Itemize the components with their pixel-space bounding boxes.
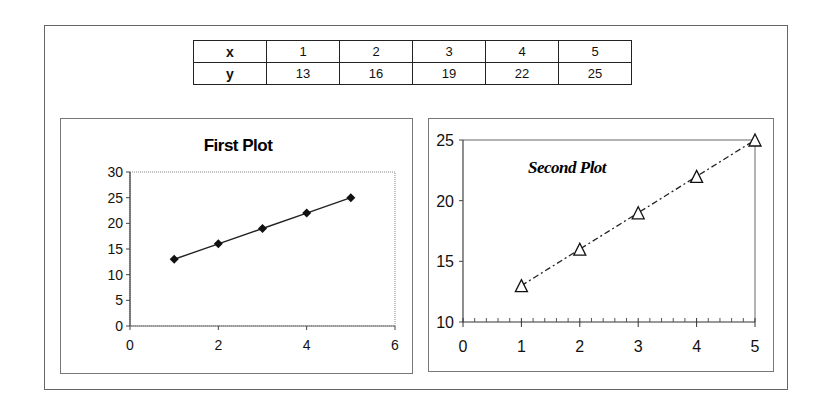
first-plot-box bbox=[60, 118, 413, 374]
second-plot-box bbox=[428, 118, 774, 372]
cell: 2 bbox=[340, 41, 413, 63]
cell: 16 bbox=[340, 63, 413, 85]
cell: 25 bbox=[559, 63, 632, 85]
cell: 1 bbox=[267, 41, 340, 63]
cell: 3 bbox=[413, 41, 486, 63]
table-row-x: x 1 2 3 4 5 bbox=[194, 41, 632, 63]
cell: 19 bbox=[413, 63, 486, 85]
cell: 22 bbox=[486, 63, 559, 85]
row-label-y: y bbox=[194, 63, 267, 85]
row-label-x: x bbox=[194, 41, 267, 63]
cell: 13 bbox=[267, 63, 340, 85]
table-row-y: y 13 16 19 22 25 bbox=[194, 63, 632, 85]
data-table: x 1 2 3 4 5 y 13 16 19 22 25 bbox=[193, 40, 632, 85]
cell: 5 bbox=[559, 41, 632, 63]
cell: 4 bbox=[486, 41, 559, 63]
